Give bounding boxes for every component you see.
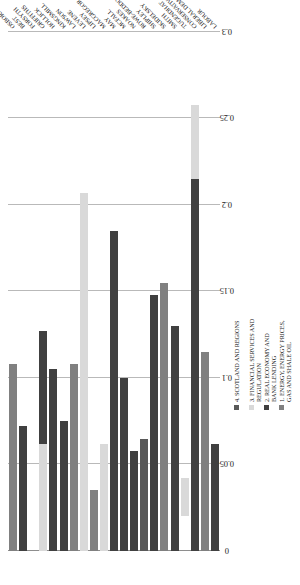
- x-axis-tick-label: 0: [225, 546, 229, 556]
- legend-swatch-icon: [279, 405, 284, 410]
- category-label: SMITH: [159, 12, 177, 30]
- category-label: BEST: [11, 15, 26, 30]
- bar-group: [29, 32, 37, 551]
- bar-segment[interactable]: [39, 331, 47, 443]
- chart-rotation-wrapper: 00.050.10.150.20.250.3 OSBORNEBESTFORSYT…: [0, 0, 300, 585]
- category-label: SHIPLEY: [135, 8, 157, 30]
- bar-group: [160, 32, 168, 551]
- bar-group: [70, 32, 78, 551]
- bar-segment[interactable]: [181, 478, 189, 516]
- bar-group: [60, 32, 68, 551]
- bar-group: [19, 32, 27, 551]
- bar-group: [201, 32, 209, 551]
- category-label: LAWSON: [54, 8, 77, 31]
- bar-group: [171, 32, 179, 551]
- category-label: ROWE-BEDDOE: [111, 0, 147, 30]
- bar-segment[interactable]: [49, 369, 57, 551]
- category-label: LABOUR: [195, 8, 218, 31]
- bar-group: [140, 32, 148, 551]
- bar-segment[interactable]: [70, 364, 78, 551]
- bar-segment[interactable]: [9, 364, 17, 551]
- category-label: MAY: [102, 16, 117, 31]
- legend-label: 2. REAL ECONOMY AND BANK LENDING: [263, 316, 278, 402]
- x-axis-tick-label: 0.25: [220, 114, 234, 124]
- x-axis-tick-label: 0.2: [222, 200, 232, 210]
- bar-group: [90, 32, 98, 551]
- bar-group: [9, 32, 17, 551]
- category-label: HOLLICK: [33, 7, 57, 31]
- plot-area: [8, 32, 220, 551]
- category-label: FORSYTH: [12, 6, 36, 30]
- legend-item[interactable]: 3. FINANCIAL SERVICES AND REGULATION: [248, 316, 263, 410]
- bar-segment[interactable]: [191, 105, 199, 179]
- category-label: SKIDELSKY: [139, 2, 168, 31]
- bar-group: [130, 32, 138, 551]
- bar-group: [39, 32, 47, 551]
- bar-segment[interactable]: [80, 193, 88, 551]
- bar-group: [211, 32, 219, 551]
- category-label: CONSERVATIVE: [161, 0, 197, 30]
- bar-group: [181, 32, 189, 551]
- legend-item[interactable]: 4. SCOTLAND AND REGIONS: [233, 321, 240, 410]
- legend-label: 3. FINANCIAL SERVICES AND REGULATION: [248, 316, 263, 402]
- bar-segment[interactable]: [201, 352, 209, 551]
- bar-segment[interactable]: [39, 444, 47, 551]
- bar-segment[interactable]: [130, 451, 138, 551]
- bar-group: [80, 32, 88, 551]
- bar-group: [150, 32, 158, 551]
- bar-chart-figure: 00.050.10.150.20.250.3 OSBORNEBESTFORSYT…: [0, 0, 300, 585]
- chart-legend: 4. SCOTLAND AND REGIONS3. FINANCIAL SERV…: [233, 40, 295, 410]
- x-axis-tick-label: 0.15: [220, 287, 234, 297]
- x-axis-tick-label: 0.1: [222, 373, 232, 383]
- bar-segment[interactable]: [160, 283, 168, 551]
- category-label: NOAKES: [115, 8, 137, 30]
- bars-layer: [8, 32, 220, 551]
- bar-group: [110, 32, 118, 551]
- bar-group: [120, 32, 128, 551]
- category-label: LIPSEY: [77, 11, 96, 30]
- legend-swatch-icon: [234, 405, 239, 410]
- bar-segment[interactable]: [110, 231, 118, 551]
- bar-group: [49, 32, 57, 551]
- bar-segment[interactable]: [140, 439, 148, 551]
- category-label: TUGENDHAT: [157, 0, 188, 30]
- category-label: OSBORNE: [0, 6, 16, 31]
- category-label: LEVENE: [65, 9, 87, 31]
- bar-segment[interactable]: [150, 295, 158, 551]
- legend-item[interactable]: 2. REAL ECONOMY AND BANK LENDING: [263, 316, 278, 410]
- category-label: LIBERAL DEMOCRAT: [161, 0, 208, 30]
- x-axis-tick-label: 0.3: [222, 27, 232, 37]
- category-label: MCFALL: [105, 9, 127, 31]
- bar-segment[interactable]: [100, 444, 108, 551]
- bar-segment[interactable]: [191, 179, 199, 551]
- bar-segment[interactable]: [60, 421, 68, 551]
- legend-label: 1. ENERGY, ENERGY PRICES, GAS AND SHALE …: [278, 316, 293, 402]
- legend-swatch-icon: [249, 405, 254, 410]
- category-label: MACGREGOR: [75, 0, 107, 30]
- bar-segment[interactable]: [19, 426, 27, 551]
- legend-item[interactable]: 1. ENERGY, ENERGY PRICES, GAS AND SHALE …: [278, 316, 293, 410]
- category-label: GRIFFITHS: [20, 4, 46, 30]
- x-axis-tick-label: 0.05: [220, 460, 234, 470]
- bar-segment[interactable]: [171, 326, 179, 551]
- bar-segment[interactable]: [120, 378, 128, 551]
- bar-segment[interactable]: [211, 444, 219, 551]
- bar-group: [100, 32, 108, 551]
- category-label: KINGSMILL: [38, 2, 66, 30]
- legend-swatch-icon: [264, 405, 269, 410]
- bar-group: [191, 32, 199, 551]
- legend-label: 4. SCOTLAND AND REGIONS: [233, 321, 240, 402]
- bar-segment[interactable]: [90, 490, 98, 551]
